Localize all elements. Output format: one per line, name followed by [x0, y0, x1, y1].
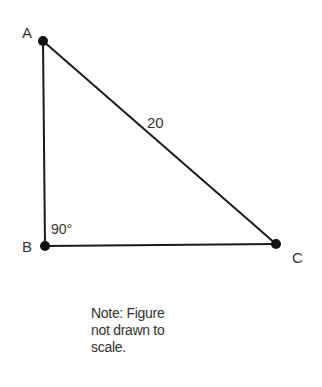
vertex-a-label: A	[22, 25, 32, 40]
right-angle-label: 90°	[51, 222, 72, 236]
side-bc	[45, 244, 276, 246]
vertex-b-dot	[40, 241, 50, 251]
note-line: Note: Figure	[91, 305, 211, 322]
note-line: scale.	[91, 339, 211, 356]
hypotenuse-length-label: 20	[147, 115, 164, 130]
vertex-b-label: B	[22, 239, 32, 254]
vertex-c-label: C	[292, 250, 303, 265]
note-line: not drawn to	[91, 322, 211, 339]
vertex-c-dot	[271, 239, 281, 249]
vertex-a-dot	[38, 36, 48, 46]
side-ac-hypotenuse	[43, 41, 276, 244]
side-ab	[43, 41, 45, 246]
scale-note: Note: Figure not drawn to scale.	[91, 305, 211, 356]
